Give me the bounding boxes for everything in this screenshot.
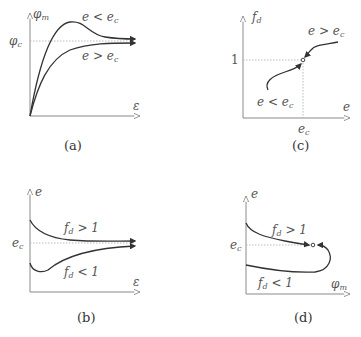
curve-label-e-less-ec: e < ec <box>82 10 119 25</box>
curve-e-greater-ec <box>305 42 338 57</box>
y-axis-label: e <box>35 185 42 199</box>
curve-label-e-greater-ec: e > ec <box>308 24 345 39</box>
curve-label-e-greater-ec: e > ec <box>82 49 119 64</box>
y-axis-label: φm <box>33 7 49 22</box>
curve-fd-less-1 <box>246 245 330 272</box>
y-axis-label: fd <box>251 10 262 25</box>
critical-point-marker <box>301 58 305 62</box>
panel-a: φm φc ε e < ec e > ec (a) <box>9 7 140 153</box>
x-tick-label: ec <box>298 122 310 137</box>
curve-e-less-ec <box>267 64 301 90</box>
y-tick-label: 1 <box>231 53 239 67</box>
diagram-figure: φm φc ε e < ec e > ec (a) fd e 1 ec e < … <box>0 0 361 337</box>
curve-label-fd-greater-1: fd > 1 <box>63 221 99 236</box>
curve-label-fd-less-1: fd < 1 <box>63 265 99 280</box>
y-axis-label: e <box>251 187 258 201</box>
y-tick-label: φc <box>9 34 22 49</box>
x-axis-label: ε <box>133 275 139 289</box>
curve-label-e-less-ec: e < ec <box>257 95 294 110</box>
x-axis-label: e <box>343 100 350 114</box>
y-tick-label: ec <box>230 238 242 253</box>
panel-caption: (a) <box>64 138 82 153</box>
x-axis-label: ε <box>133 99 139 113</box>
curve-e-less-ec <box>30 22 135 116</box>
panel-d: e ec φm fd > 1 fd < 1 (d) <box>230 187 350 325</box>
panel-caption: (b) <box>77 310 95 325</box>
curve-label-fd-greater-1: fd > 1 <box>271 223 307 238</box>
panel-caption: (d) <box>294 310 312 325</box>
curve-label-fd-less-1: fd < 1 <box>257 276 293 291</box>
x-axis-label: φm <box>331 277 347 292</box>
panel-c: fd e 1 ec e < ec e > ec (c) <box>231 10 350 153</box>
critical-point-marker <box>311 243 315 247</box>
panel-caption: (c) <box>292 138 309 153</box>
panel-b: e ec ε fd > 1 fd < 1 (b) <box>12 185 140 325</box>
y-tick-label: ec <box>12 236 24 251</box>
